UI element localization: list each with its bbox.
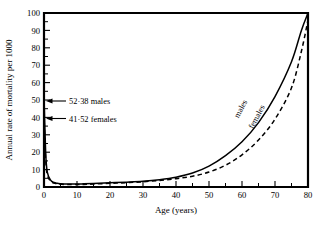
mortality-chart-figure: 0 10 20 30 40 50 60 70 80 90 100 <box>0 0 330 230</box>
x-tick-label-30: 30 <box>139 190 148 200</box>
y-tick-label-60: 60 <box>31 78 40 88</box>
y-tick-label-30: 30 <box>31 130 40 140</box>
y-tick-label-0: 0 <box>36 182 40 192</box>
x-tick-label-70: 70 <box>271 190 280 200</box>
x-tick-label-20: 20 <box>106 190 115 200</box>
y-tick-label-100: 100 <box>27 8 40 18</box>
x-tick-label-10: 10 <box>73 190 82 200</box>
annotation-label-females: 41·52 females <box>69 115 117 124</box>
x-tick-label-40: 40 <box>172 190 181 200</box>
x-axis-tick-labels: 0 10 20 30 40 50 60 70 80 <box>42 190 312 200</box>
x-tick-label-60: 60 <box>238 190 247 200</box>
annotation-females-infant: 41·52 females <box>46 115 117 124</box>
y-axis-title: Annual rate of mortality per 1000 <box>4 39 14 161</box>
x-tick-label-80: 80 <box>304 190 313 200</box>
y-tick-label-80: 80 <box>31 43 40 53</box>
curve-label-females: females <box>247 103 267 130</box>
annotation-males-infant: 52·38 males <box>46 97 110 106</box>
x-tick-label-50: 50 <box>205 190 214 200</box>
annotation-arrowhead-males <box>46 99 53 104</box>
curve-inline-labels: males females <box>232 98 266 130</box>
y-tick-label-50: 50 <box>31 95 40 105</box>
y-tick-label-10: 10 <box>31 165 40 175</box>
y-tick-label-90: 90 <box>31 26 40 36</box>
y-tick-label-40: 40 <box>31 113 40 123</box>
y-tick-label-20: 20 <box>31 147 40 157</box>
x-axis-title: Age (years) <box>155 205 197 215</box>
y-axis-tick-labels: 0 10 20 30 40 50 60 70 80 90 100 <box>27 8 40 192</box>
annotation-label-males: 52·38 males <box>69 97 110 106</box>
curve-label-males: males <box>232 98 249 119</box>
annotation-arrowhead-females <box>46 116 53 121</box>
chart-canvas: 0 10 20 30 40 50 60 70 80 90 100 <box>0 0 330 230</box>
x-tick-label-0: 0 <box>42 190 46 200</box>
y-tick-label-70: 70 <box>31 60 40 70</box>
